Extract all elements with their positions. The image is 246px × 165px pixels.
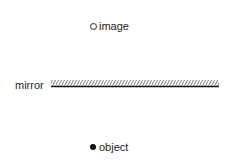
object-point-icon [90,144,96,150]
mirror-label: mirror [15,79,44,91]
image-label: image [99,20,129,32]
image-point-icon [90,23,97,30]
object-label: object [99,141,128,153]
mirror-surface [50,79,222,89]
